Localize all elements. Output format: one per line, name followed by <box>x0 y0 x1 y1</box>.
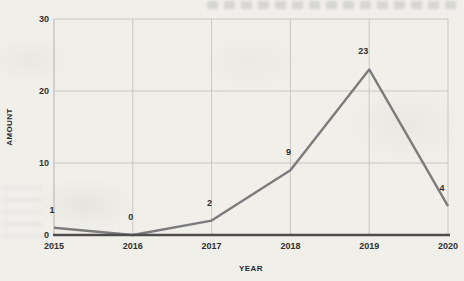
x-tick-label: 2017 <box>202 241 222 251</box>
y-tick-label: 20 <box>39 86 49 96</box>
data-label: 4 <box>439 183 444 193</box>
x-axis-title: YEAR <box>239 264 263 273</box>
x-tick-label: 2020 <box>438 241 458 251</box>
y-axis-title: AMOUNT <box>5 108 14 146</box>
y-tick-label: 30 <box>39 14 49 24</box>
x-tick-label: 2019 <box>359 241 379 251</box>
data-label: 23 <box>358 46 368 56</box>
scanned-paper-page: AMOUNT YEAR 0102030201520162017201820192… <box>0 0 464 281</box>
data-label: 9 <box>286 147 291 157</box>
data-label: 2 <box>207 198 212 208</box>
data-label: 0 <box>128 212 133 222</box>
line-chart: AMOUNT YEAR 0102030201520162017201820192… <box>0 0 464 281</box>
data-label: 1 <box>49 205 54 215</box>
y-tick-label: 0 <box>44 230 49 240</box>
x-tick-label: 2016 <box>123 241 143 251</box>
x-tick-label: 2015 <box>44 241 64 251</box>
x-tick-label: 2018 <box>280 241 300 251</box>
y-tick-label: 10 <box>39 158 49 168</box>
plot-area <box>0 0 464 281</box>
data-series-line <box>54 69 448 235</box>
